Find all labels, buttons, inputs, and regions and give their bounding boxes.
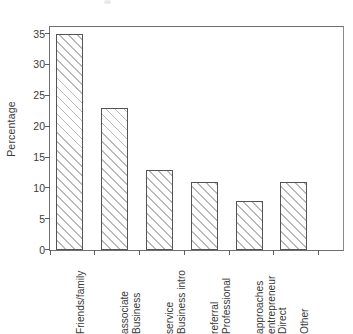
x-axis-category-label-line: approaches bbox=[254, 281, 266, 334]
y-axis-tick-mark bbox=[45, 33, 50, 34]
bar bbox=[280, 182, 307, 250]
scan-artifact bbox=[104, 0, 111, 4]
x-axis-category-label-line: service bbox=[164, 302, 176, 334]
x-axis-tick-mark bbox=[94, 250, 95, 255]
x-axis-tick-mark bbox=[318, 250, 319, 255]
x-axis-category-label-line: Other bbox=[299, 309, 311, 334]
y-axis-title-text: Percentage bbox=[5, 101, 17, 157]
y-axis-tick-mark bbox=[45, 157, 50, 158]
x-axis-category-label: Other bbox=[299, 256, 353, 334]
y-axis-tick-label: 25 bbox=[33, 89, 45, 101]
x-axis-category-label-line: Business intro bbox=[176, 270, 188, 334]
x-axis-tick-mark bbox=[139, 250, 140, 255]
x-axis-tick-mark bbox=[273, 250, 274, 255]
x-axis-category-label-line: Business bbox=[131, 293, 143, 334]
bar bbox=[236, 201, 263, 250]
y-axis-tick-mark bbox=[45, 95, 50, 96]
x-axis-category-label-line: Friends/family bbox=[75, 271, 87, 334]
y-axis-tick-labels: 05101520253035 bbox=[22, 0, 49, 334]
plot-area bbox=[49, 26, 344, 251]
y-axis-tick-mark bbox=[45, 64, 50, 65]
y-axis-tick-label: 15 bbox=[33, 151, 45, 163]
x-axis-category-label-line: Direct bbox=[277, 307, 289, 334]
bar-chart-figure: Percentage 05101520253035 Friends/family… bbox=[0, 0, 353, 334]
x-axis-category-label-line: Professional bbox=[221, 278, 233, 334]
x-axis-category-label-line: associate bbox=[119, 291, 131, 334]
y-axis-title: Percentage bbox=[0, 0, 22, 258]
bar bbox=[191, 182, 218, 250]
x-axis-category-label: Professionalreferral bbox=[209, 256, 287, 334]
y-axis-tick-mark bbox=[45, 218, 50, 219]
x-axis-category-label: Businessassociate bbox=[119, 256, 197, 334]
y-axis-tick-label: 20 bbox=[33, 120, 45, 132]
y-axis-tick-label: 30 bbox=[33, 58, 45, 70]
bar bbox=[146, 170, 173, 250]
x-axis-tick-mark bbox=[50, 250, 51, 255]
x-axis-tick-mark bbox=[184, 250, 185, 255]
x-axis-category-label-line: entrepreneur bbox=[266, 276, 278, 334]
y-axis-tick-mark bbox=[45, 126, 50, 127]
x-axis-category-label-line: referral bbox=[209, 302, 221, 334]
plot-inner bbox=[50, 27, 343, 250]
y-axis-tick-label: 35 bbox=[33, 28, 45, 40]
x-axis-tick-mark bbox=[229, 250, 230, 255]
x-axis-category-label: Directentrepreneurapproaches bbox=[254, 256, 332, 334]
y-axis-tick-mark bbox=[45, 187, 50, 188]
x-axis-category-label: Friends/family bbox=[75, 256, 153, 334]
bar bbox=[56, 34, 83, 250]
bar bbox=[101, 108, 128, 250]
x-axis-category-label: Business introservice bbox=[164, 256, 242, 334]
y-axis-tick-label: 10 bbox=[33, 182, 45, 194]
x-axis-category-labels: Friends/familyBusinessassociateBusiness … bbox=[49, 256, 344, 334]
